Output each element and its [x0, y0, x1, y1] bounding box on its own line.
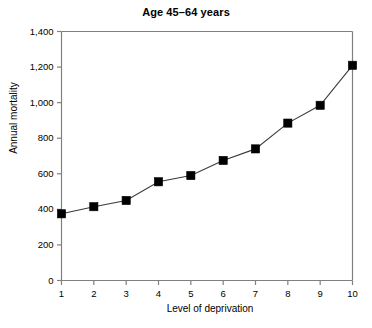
x-tick-label: 1	[50, 289, 74, 299]
y-tick-label: 1,400	[8, 27, 54, 37]
data-point-marker[interactable]	[187, 171, 195, 179]
y-tick-label: 800	[8, 133, 54, 143]
x-tick-label: 3	[114, 289, 138, 299]
y-tick-label: 600	[8, 169, 54, 179]
data-point-marker[interactable]	[154, 178, 162, 186]
axes-group	[62, 32, 353, 281]
tick-marks-group	[57, 32, 353, 286]
x-tick-label: 4	[147, 289, 171, 299]
x-tick-label: 9	[308, 289, 332, 299]
data-point-marker[interactable]	[122, 196, 130, 204]
data-point-marker[interactable]	[219, 156, 227, 164]
plot-area	[0, 0, 372, 328]
data-point-marker[interactable]	[316, 101, 324, 109]
data-series-group	[57, 61, 356, 218]
data-point-marker[interactable]	[251, 145, 259, 153]
y-tick-label: 0	[8, 276, 54, 286]
y-tick-label: 1,200	[8, 62, 54, 72]
x-tick-label: 10	[341, 289, 365, 299]
data-point-marker[interactable]	[90, 203, 98, 211]
data-point-marker[interactable]	[284, 119, 292, 127]
chart-figure: Age 45–64 years Annual mortality Level o…	[0, 0, 372, 328]
y-tick-label: 400	[8, 204, 54, 214]
y-tick-label: 1,000	[8, 98, 54, 108]
x-tick-label: 7	[244, 289, 268, 299]
y-tick-label: 200	[8, 240, 54, 250]
x-tick-label: 5	[179, 289, 203, 299]
data-point-marker[interactable]	[57, 210, 65, 218]
x-tick-label: 8	[276, 289, 300, 299]
series-line	[62, 65, 353, 214]
x-tick-label: 2	[82, 289, 106, 299]
data-point-marker[interactable]	[348, 61, 356, 69]
x-tick-label: 6	[211, 289, 235, 299]
